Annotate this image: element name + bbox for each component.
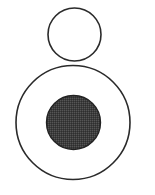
top-circle	[48, 8, 101, 61]
diagram-canvas	[0, 0, 155, 195]
inner-filled-circle	[47, 96, 101, 150]
